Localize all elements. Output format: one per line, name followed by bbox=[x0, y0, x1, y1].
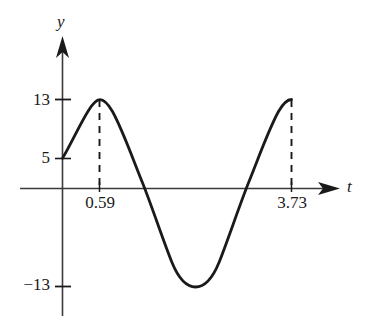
x-axis-label: t bbox=[347, 178, 352, 195]
y-tick-label-5: 5 bbox=[10, 149, 50, 166]
y-axis-label: y bbox=[57, 13, 65, 30]
sinusoid-graph-figure: y t 13 5 −13 0.59 3.73 bbox=[0, 0, 365, 319]
vertical-axis bbox=[56, 36, 69, 316]
x-tick-label-373: 3.73 bbox=[258, 194, 326, 211]
plot-canvas bbox=[0, 0, 365, 319]
x-axis-ticks bbox=[100, 182, 292, 192]
x-tick-label-059: 0.59 bbox=[66, 194, 134, 211]
y-tick-label-13: 13 bbox=[10, 91, 50, 108]
y-tick-label-neg13: −13 bbox=[0, 276, 50, 293]
